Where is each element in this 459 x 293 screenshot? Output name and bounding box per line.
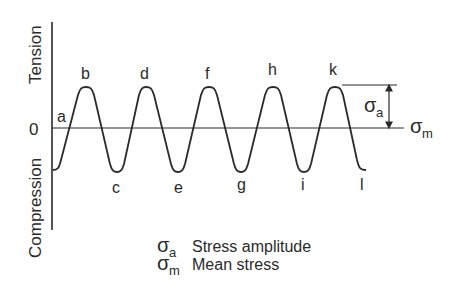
compression-label: Compression — [26, 158, 45, 258]
point-label-h: h — [268, 61, 277, 78]
point-label-a: a — [57, 108, 66, 125]
stress-waveform — [53, 87, 366, 172]
svg-text:Mean stress: Mean stress — [192, 256, 279, 273]
fatigue-stress-cycle-diagram: Tension Compression 0 a b d f h k c e g … — [0, 0, 459, 293]
sigma-a-annotation: σ a — [364, 94, 384, 120]
svg-text:Stress amplitude: Stress amplitude — [192, 238, 311, 255]
point-label-k: k — [329, 61, 338, 78]
point-label-g: g — [237, 176, 246, 193]
legend: σ a Stress amplitude σ m Mean stress — [157, 234, 311, 278]
svg-text:m: m — [169, 263, 180, 278]
point-label-l: l — [360, 176, 364, 193]
zero-label: 0 — [29, 120, 38, 139]
svg-text:m: m — [422, 126, 433, 141]
svg-text:a: a — [169, 245, 177, 260]
tension-label: Tension — [26, 25, 45, 84]
svg-text:a: a — [376, 105, 384, 120]
point-label-b: b — [81, 65, 90, 82]
point-label-f: f — [205, 65, 210, 82]
point-label-e: e — [174, 179, 183, 196]
point-label-d: d — [140, 65, 149, 82]
sigma-m-annotation: σ m — [410, 115, 433, 141]
amplitude-arrow — [386, 85, 392, 128]
point-label-i: i — [301, 176, 305, 193]
point-label-c: c — [112, 179, 120, 196]
